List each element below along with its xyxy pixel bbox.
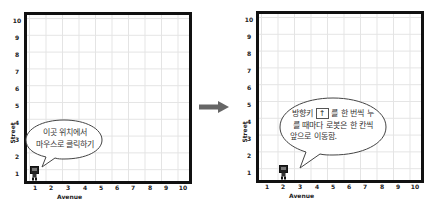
bubble-text: 방향키 ↑ 를 한 번씩 누 를 때마다 로봇은 한 칸씩 앞으로 이동함. [284, 108, 382, 143]
y-tick: 10 [13, 18, 21, 24]
y-tick: 8 [247, 51, 251, 57]
x-tick: 2 [49, 185, 53, 191]
robot-icon[interactable] [30, 166, 39, 181]
y-tick: 9 [247, 34, 251, 40]
speech-bubble: 이곳 위치에서 마우스로 클릭하기 [24, 118, 104, 170]
x-tick: 6 [115, 185, 119, 191]
x-tick: 3 [66, 185, 70, 191]
x-tick: 10 [411, 184, 419, 190]
y-tick: 8 [15, 52, 19, 58]
x-tick: 6 [347, 184, 351, 190]
speech-bubble: 방향키 ↑ 를 한 번씩 누 를 때마다 로봇은 한 칸씩 앞으로 이동함. [278, 96, 388, 172]
x-axis-label: Avenue [289, 193, 314, 199]
y-tick: 7 [247, 68, 251, 74]
karel-world-before: 10 9 8 7 6 5 4 3 2 1 1 2 3 4 5 6 7 8 9 1… [0, 0, 215, 208]
x-tick: 7 [131, 185, 135, 191]
y-tick: 9 [15, 35, 19, 41]
y-axis-label: Street [242, 121, 248, 142]
y-tick: 1 [15, 171, 19, 177]
y-tick: 7 [15, 69, 19, 75]
right-arrow-icon [199, 98, 229, 117]
x-tick: 7 [363, 184, 367, 190]
y-tick: 6 [247, 85, 251, 91]
x-tick: 10 [179, 185, 187, 191]
y-tick: 2 [247, 153, 251, 159]
x-axis-label: Avenue [57, 194, 82, 200]
x-tick: 5 [331, 184, 335, 190]
y-tick: 6 [15, 86, 19, 92]
y-tick: 10 [245, 17, 253, 23]
x-tick: 8 [148, 185, 152, 191]
x-tick: 9 [396, 184, 400, 190]
x-tick: 9 [164, 185, 168, 191]
x-tick: 1 [265, 184, 269, 190]
up-arrow-key-icon: ↑ [316, 108, 329, 119]
x-tick: 2 [281, 184, 285, 190]
y-tick: 5 [15, 103, 19, 109]
x-tick: 4 [315, 184, 319, 190]
x-tick: 5 [99, 185, 103, 191]
robot-icon[interactable] [279, 165, 288, 180]
bubble-text: 이곳 위치에서 마우스로 클릭하기 [34, 127, 96, 150]
x-tick: 4 [83, 185, 87, 191]
y-tick: 1 [247, 170, 251, 176]
y-tick: 2 [15, 154, 19, 160]
y-tick: 5 [247, 102, 251, 108]
y-axis-label: Street [10, 122, 16, 143]
x-tick: 3 [298, 184, 302, 190]
karel-world-after: 10 9 8 7 6 5 4 3 2 1 1 2 3 4 5 6 7 8 9 1… [232, 0, 431, 208]
x-tick: 8 [380, 184, 384, 190]
x-tick: 1 [33, 185, 37, 191]
